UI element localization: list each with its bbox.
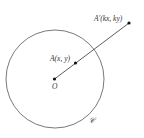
label-a-prime: A'(kx, ky) — [93, 14, 123, 23]
point-a — [74, 61, 77, 64]
point-a-prime — [127, 21, 130, 24]
label-circle-c: 𝒞 — [89, 116, 97, 125]
label-origin: O — [52, 82, 58, 91]
point-origin — [53, 77, 56, 80]
diagram-canvas: O A(x, y) A'(kx, ky) 𝒞 — [0, 0, 144, 138]
label-a: A(x, y) — [49, 54, 70, 63]
